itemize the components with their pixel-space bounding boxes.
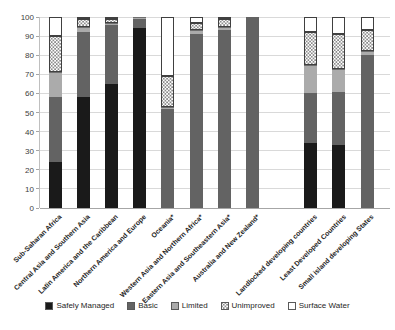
bar-1 [49, 17, 62, 208]
legend-item: Surface Water [288, 301, 350, 310]
y-axis-tick [36, 74, 39, 75]
bar-segment-unimproved [161, 76, 174, 107]
bar-10 [332, 17, 345, 208]
bar-segment-basic [218, 30, 231, 208]
legend-item: Unimproved [221, 301, 275, 310]
bar-segment-unimproved [304, 32, 317, 64]
bar-segment-limited [304, 65, 317, 94]
legend-label: Surface Water [299, 301, 350, 310]
legend-item: Limited [171, 301, 208, 310]
bar-9 [304, 17, 317, 208]
y-axis-label: 90 [25, 32, 34, 41]
bar-segment-unimproved [190, 23, 203, 31]
plot-area: 0102030405060708090100Sub-Saharan Africa… [40, 17, 390, 208]
bar-3 [105, 17, 118, 208]
y-axis-label: 20 [25, 165, 34, 174]
y-axis-label: 40 [25, 127, 34, 136]
legend-item: Safely Managed [45, 301, 114, 310]
bar-segment-basic [190, 34, 203, 208]
chart-legend: Safely ManagedBasicLimitedUnimprovedSurf… [0, 301, 395, 310]
bar-11 [361, 17, 374, 208]
bar-5 [161, 17, 174, 208]
bar-6 [190, 17, 203, 208]
bar-segment-safely [133, 28, 146, 208]
bar-segment-unimproved [77, 19, 90, 27]
bar-segment-safely [49, 162, 62, 208]
bar-segment-basic [161, 109, 174, 208]
y-axis-label: 50 [25, 108, 34, 117]
bar-segment-basic [49, 97, 62, 162]
y-axis-tick [36, 131, 39, 132]
bar-segment-limited [332, 69, 345, 92]
legend-swatch-surface-icon [288, 302, 296, 310]
y-axis-label: 60 [25, 89, 34, 98]
bar-segment-unimproved [361, 30, 374, 51]
bar-segment-basic [77, 32, 90, 97]
y-axis-tick [36, 36, 39, 37]
bar-segment-surface [361, 17, 374, 30]
bar-segment-surface [304, 17, 317, 32]
bar-segment-safely [77, 97, 90, 208]
bar-segment-basic [361, 55, 374, 208]
y-axis-tick [36, 93, 39, 94]
y-axis-tick [36, 208, 39, 209]
bar-segment-unimproved [332, 34, 345, 68]
bar-segment-surface [161, 17, 174, 76]
legend-label: Basic [138, 301, 158, 310]
bar-8 [246, 17, 259, 208]
bar-2 [77, 17, 90, 208]
bar-segment-surface [332, 17, 345, 34]
bar-4 [133, 17, 146, 208]
bar-segment-safely [105, 84, 118, 208]
y-axis-tick [36, 112, 39, 113]
y-axis-tick [36, 150, 39, 151]
legend-label: Unimproved [232, 301, 275, 310]
legend-swatch-unimproved-icon [221, 302, 229, 310]
legend-swatch-basic-icon [127, 302, 135, 310]
y-axis-tick [36, 188, 39, 189]
bar-segment-safely [304, 143, 317, 208]
bar-segment-basic [105, 25, 118, 84]
y-axis-tick [36, 17, 39, 18]
y-axis-label: 80 [25, 51, 34, 60]
legend-label: Limited [182, 301, 208, 310]
bar-segment-limited [49, 72, 62, 97]
legend-label: Safely Managed [56, 301, 114, 310]
legend-swatch-safely-icon [45, 302, 53, 310]
stacked-bar-chart: 0102030405060708090100Sub-Saharan Africa… [0, 0, 395, 330]
y-axis-label: 30 [25, 146, 34, 155]
y-axis-label: 70 [25, 70, 34, 79]
legend-item: Basic [127, 301, 158, 310]
legend-swatch-limited-icon [171, 302, 179, 310]
y-axis-tick [36, 55, 39, 56]
bar-segment-unimproved [49, 36, 62, 72]
bar-segment-basic [304, 93, 317, 143]
bar-segment-unimproved [218, 19, 231, 27]
y-axis-label: 10 [25, 184, 34, 193]
bar-segment-basic [246, 17, 259, 208]
bar-segment-safely [332, 145, 345, 208]
y-axis-tick [36, 169, 39, 170]
bar-segment-basic [332, 92, 345, 145]
bar-7 [218, 17, 231, 208]
y-axis-label: 100 [21, 13, 34, 22]
bar-segment-surface [49, 17, 62, 36]
y-axis-label: 0 [30, 204, 34, 213]
bar-segment-basic [133, 19, 146, 29]
